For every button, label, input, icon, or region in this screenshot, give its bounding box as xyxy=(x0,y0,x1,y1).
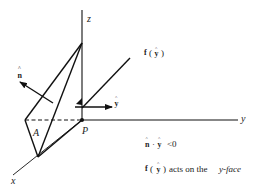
force-label-f: f xyxy=(144,48,147,57)
y-axis-label: y xyxy=(240,113,246,124)
x-axis-label: x xyxy=(10,175,16,186)
face-close: ) xyxy=(163,164,166,174)
force-label-open: ( xyxy=(149,48,152,58)
origin-label: P xyxy=(81,125,88,136)
tetrahedron-stress-diagram: z y x ^ n f ( ^ y ) ^ y P A ^ n · ^ y <0… xyxy=(0,0,259,193)
edge-apex-bottom xyxy=(38,43,82,157)
face-y: y xyxy=(157,165,161,174)
edge-left-bottom xyxy=(25,120,38,157)
dot-n: n xyxy=(145,140,150,149)
face-f: f xyxy=(145,164,148,173)
force-label-close: ) xyxy=(161,48,164,58)
dot-relation: <0 xyxy=(167,139,177,149)
edge-apex-left xyxy=(25,43,82,120)
z-axis-label: z xyxy=(86,13,91,24)
unit-y-label: y xyxy=(115,99,119,108)
normal-vector-arrow xyxy=(20,82,53,103)
force-base-wedge xyxy=(76,98,82,105)
origin-point xyxy=(80,118,84,122)
dot-y: y xyxy=(158,140,162,149)
area-label: A xyxy=(32,127,40,138)
dot-operator: · xyxy=(152,139,155,149)
face-open: ( xyxy=(150,164,153,174)
face-text: acts on the xyxy=(169,164,208,174)
force-vector-line xyxy=(82,58,130,108)
force-label-y: y xyxy=(155,49,159,58)
face-name: y-face xyxy=(218,164,241,174)
normal-vector-label: n xyxy=(18,71,23,80)
